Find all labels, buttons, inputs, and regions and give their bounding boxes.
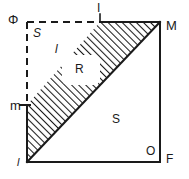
- label-upper-s: S: [33, 27, 41, 39]
- label-bottom-left-l: l: [17, 157, 19, 168]
- label-inner-o: O: [146, 145, 155, 157]
- label-lower-s: S: [112, 113, 120, 125]
- label-phi: Φ: [8, 13, 18, 26]
- label-upper-l: l: [55, 43, 58, 55]
- figure-canvas: Φ S l I M m l R S O F: [0, 0, 189, 179]
- label-corner-f: F: [166, 153, 173, 165]
- label-region-r: R: [75, 63, 84, 75]
- label-top-i: I: [97, 2, 100, 14]
- label-left-m-lower: m: [10, 99, 21, 112]
- figure-svg: [0, 0, 189, 179]
- label-corner-m-upper: M: [166, 19, 177, 32]
